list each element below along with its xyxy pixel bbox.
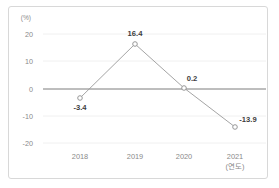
series-line	[80, 44, 235, 127]
x-axis-unit-label: (연도)	[226, 162, 245, 171]
y-tick-label-0: 0	[29, 85, 33, 94]
y-tick-label-20: 20	[25, 30, 33, 39]
data-point-2020[interactable]	[182, 86, 187, 91]
x-tick-label-2018: 2018	[72, 152, 88, 161]
y-tick-label-10: 10	[25, 57, 33, 66]
x-tick-label-2021: 2021	[227, 152, 243, 161]
value-label-2020: 0.2	[187, 74, 198, 83]
line-chart: (%) 20 10 0 -10 -20 -3.4 16.4 0.2 -13.9 …	[9, 7, 267, 178]
x-tick-label-2019: 2019	[127, 152, 143, 161]
data-point-2021[interactable]	[233, 125, 238, 130]
data-point-2018[interactable]	[78, 96, 83, 101]
chart-frame: (%) 20 10 0 -10 -20 -3.4 16.4 0.2 -13.9 …	[8, 6, 268, 179]
value-label-2019: 16.4	[128, 29, 144, 38]
data-point-2019[interactable]	[133, 42, 138, 47]
x-tick-label-2020: 2020	[176, 152, 192, 161]
y-axis-unit-label: (%)	[21, 14, 31, 22]
y-tick-label-minus20: -20	[23, 139, 33, 148]
value-label-2018: -3.4	[73, 103, 87, 112]
y-tick-label-minus10: -10	[23, 112, 33, 121]
value-label-2021: -13.9	[239, 115, 256, 124]
